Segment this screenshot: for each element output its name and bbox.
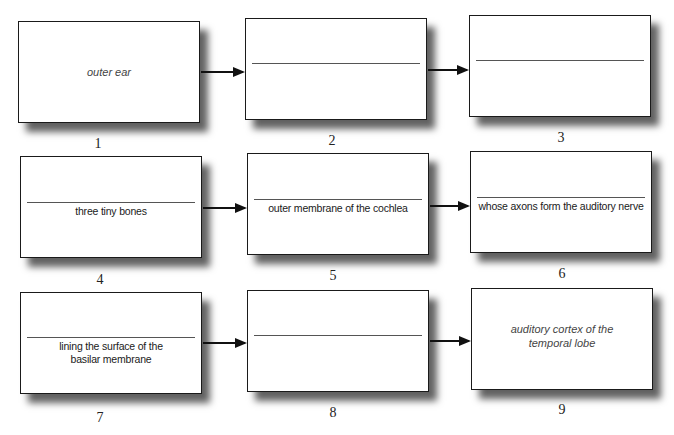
step-number-2: 2 <box>317 133 347 149</box>
step-box-2 <box>245 18 427 120</box>
step-8-blank-line[interactable] <box>254 335 422 336</box>
step-3-blank-line[interactable] <box>476 60 644 61</box>
step-box-8 <box>247 290 429 392</box>
step-6-answer: whose axons form the auditory nerve <box>471 200 651 213</box>
arrow-4-to-5 <box>203 207 245 209</box>
step-4-blank-line[interactable] <box>27 202 195 203</box>
arrow-1-to-2 <box>201 71 243 73</box>
step-5-answer: outer membrane of the cochlea <box>248 202 428 215</box>
step-number-4: 4 <box>85 272 115 288</box>
step-7-answer-line-2: basilar membrane <box>21 353 201 366</box>
step-number-6: 6 <box>547 266 577 282</box>
arrow-7-to-8 <box>203 342 245 344</box>
step-box-4: three tiny bones <box>20 156 202 258</box>
arrow-5-to-6 <box>430 205 468 207</box>
step-box-3 <box>469 15 651 117</box>
step-4-answer: three tiny bones <box>21 205 201 218</box>
step-2-blank-line[interactable] <box>252 63 420 64</box>
step-9-label-line-2: temporal lobe <box>472 336 652 350</box>
arrow-8-to-9 <box>430 340 469 342</box>
step-number-5: 5 <box>318 268 348 284</box>
step-number-8: 8 <box>318 405 348 421</box>
step-number-3: 3 <box>546 130 576 146</box>
step-box-6: whose axons form the auditory nerve <box>470 151 652 253</box>
step-1-label: outer ear <box>19 65 199 79</box>
step-7-blank-line[interactable] <box>27 337 195 338</box>
step-box-1: outer ear <box>18 21 200 123</box>
arrow-2-to-3 <box>428 69 467 71</box>
step-6-blank-line[interactable] <box>477 197 645 198</box>
step-5-blank-line[interactable] <box>254 199 422 200</box>
step-box-7: lining the surface of the basilar membra… <box>20 292 202 394</box>
step-box-9: auditory cortex of the temporal lobe <box>471 288 653 390</box>
step-box-5: outer membrane of the cochlea <box>247 153 429 255</box>
flow-diagram: outer ear 1 2 3 three tiny bones 4 outer… <box>0 0 674 435</box>
step-number-7: 7 <box>85 410 115 426</box>
step-9-label-line-1: auditory cortex of the <box>472 322 652 336</box>
step-7-answer-line-1: lining the surface of the <box>21 340 201 353</box>
step-number-9: 9 <box>547 402 577 418</box>
step-number-1: 1 <box>83 136 113 152</box>
